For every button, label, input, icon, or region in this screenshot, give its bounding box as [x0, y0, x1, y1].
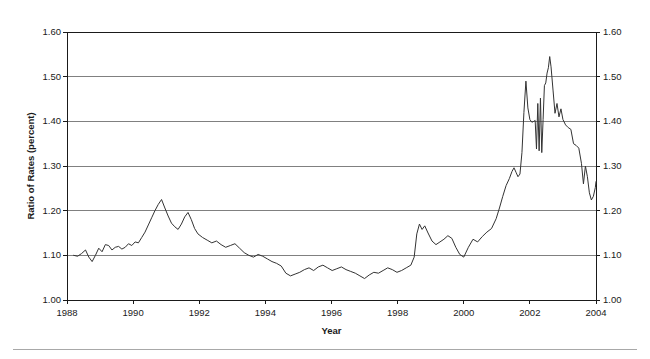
y-tick-label-right: 1.50	[603, 71, 637, 82]
x-tick-label: 1990	[113, 307, 153, 318]
y-tick-label-right: 1.40	[603, 115, 637, 126]
x-tick-label: 1994	[245, 307, 285, 318]
x-tick-label: 2002	[510, 307, 550, 318]
chart-figure: 1.001.101.201.301.401.501.60 1.001.101.2…	[0, 0, 650, 359]
x-tick-label: 2004	[576, 307, 616, 318]
x-tick-label: 2000	[444, 307, 484, 318]
y-tick-label-right: 1.20	[603, 205, 637, 216]
x-axis-title: Year	[67, 325, 596, 336]
data-series-line	[74, 57, 596, 279]
x-tick-label: 1998	[378, 307, 418, 318]
y-tick-label-right: 1.60	[603, 26, 637, 37]
gridlines-group	[67, 32, 596, 300]
x-tick-label: 1996	[312, 307, 352, 318]
x-tick-label: 1988	[47, 307, 87, 318]
y-tick-label-right: 1.30	[603, 160, 637, 171]
x-tick-label: 1992	[179, 307, 219, 318]
axis-ticks-group	[63, 32, 600, 304]
bottom-divider-rule	[13, 349, 637, 350]
y-tick-label-right: 1.00	[603, 294, 637, 305]
y-axis-title: Ratio of Rates (percent)	[24, 32, 38, 300]
line-chart-plot	[0, 0, 650, 359]
y-tick-label-right: 1.10	[603, 249, 637, 260]
